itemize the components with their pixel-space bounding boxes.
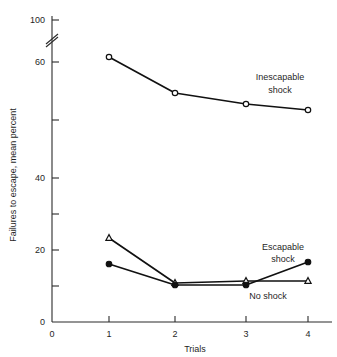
annotation-no-shock: No shock — [249, 291, 287, 301]
data-point — [106, 261, 112, 267]
data-point — [172, 282, 178, 288]
data-point — [305, 259, 311, 265]
y-tick-label-20: 20 — [35, 245, 45, 255]
line-chart-plot: 100 60 40 20 0 0 1 2 3 4 Trials Failures… — [0, 0, 337, 357]
x-tick-label-2: 2 — [172, 329, 177, 339]
y-tick-label-100: 100 — [30, 15, 45, 25]
annotation-inescapable-shock-line1: Inescapable — [256, 72, 305, 82]
data-point — [243, 101, 248, 106]
data-point — [305, 278, 311, 284]
data-point — [172, 90, 177, 95]
x-tick-label-3: 3 — [243, 329, 248, 339]
x-tick-label-4: 4 — [305, 329, 310, 339]
x-tick-label-0: 0 — [49, 329, 54, 339]
x-axis-title: Trials — [184, 344, 206, 354]
data-point — [305, 107, 310, 112]
data-point — [243, 282, 249, 288]
y-tick-label-60: 60 — [35, 57, 45, 67]
chart-figure: 100 60 40 20 0 0 1 2 3 4 Trials Failures… — [0, 0, 337, 357]
y-axis-title: Failures to escape, mean percent — [8, 108, 18, 242]
annotation-escapable-shock-line1: Escapable — [262, 242, 304, 252]
data-point — [106, 235, 112, 241]
series-inescapable-line — [109, 57, 308, 110]
annotation-escapable-shock-line2: shock — [271, 254, 295, 264]
data-point — [106, 54, 111, 59]
y-tick-label-40: 40 — [35, 173, 45, 183]
series-inescapable-shock — [106, 54, 310, 112]
x-tick-label-1: 1 — [106, 329, 111, 339]
y-tick-label-0: 0 — [40, 317, 45, 327]
annotation-inescapable-shock-line2: shock — [268, 85, 292, 95]
